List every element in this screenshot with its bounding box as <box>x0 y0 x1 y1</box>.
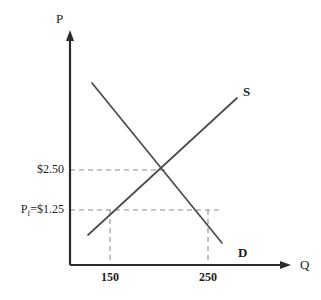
price-floor-symbol: P <box>21 202 28 216</box>
chart-canvas <box>0 0 321 300</box>
quantity-tick-150: 150 <box>86 271 134 283</box>
x-axis-label: Q <box>300 258 309 271</box>
price-tick-equilibrium: $2.50 <box>0 163 64 175</box>
quantity-tick-250: 250 <box>184 271 232 283</box>
demand-curve <box>92 83 222 243</box>
price-tick-floor: Pf=$1.25 <box>0 203 64 218</box>
price-floor-value: =$1.25 <box>30 202 64 216</box>
demand-curve-label: D <box>238 246 247 259</box>
x-axis-arrow-icon <box>280 261 291 269</box>
supply-curve <box>88 98 237 235</box>
y-axis-arrow-icon <box>66 30 74 41</box>
supply-demand-chart: P Q S D $2.50 Pf=$1.25 150 250 <box>0 0 321 300</box>
y-axis-label: P <box>56 12 63 25</box>
supply-curve-label: S <box>243 85 250 98</box>
